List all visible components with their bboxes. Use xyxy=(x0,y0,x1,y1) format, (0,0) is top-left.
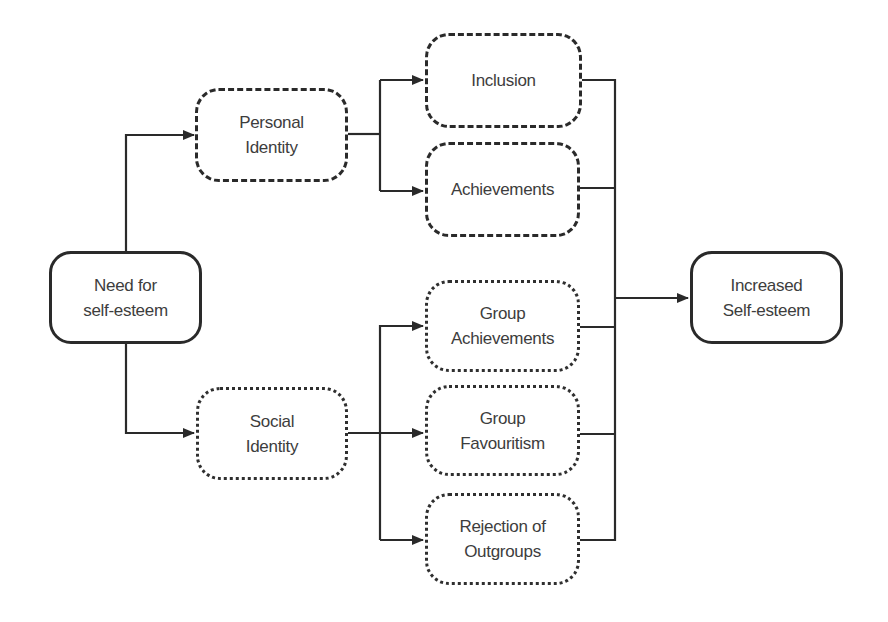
node-label: Increased Self-esteem xyxy=(723,273,810,323)
node-group-achievements: Group Achievements xyxy=(425,280,580,372)
node-need-for-self-esteem: Need for self-esteem xyxy=(49,251,202,344)
node-label: Rejection of Outgroups xyxy=(459,514,545,564)
node-label: Personal Identity xyxy=(239,110,304,160)
node-label: Achievements xyxy=(451,177,554,202)
node-label: Group Achievements xyxy=(451,301,554,351)
node-label: Social Identity xyxy=(246,409,298,459)
node-achievements: Achievements xyxy=(425,142,580,237)
node-personal-identity: Personal Identity xyxy=(195,88,348,182)
node-inclusion: Inclusion xyxy=(425,33,582,128)
node-increased-self-esteem: Increased Self-esteem xyxy=(690,251,843,344)
edge-need-social xyxy=(126,344,194,433)
node-group-favouritism: Group Favouritism xyxy=(425,385,580,476)
edge-need-personal xyxy=(126,135,194,251)
node-label: Need for self-esteem xyxy=(83,273,168,323)
node-rejection-of-outgroups: Rejection of Outgroups xyxy=(425,493,580,585)
node-label: Inclusion xyxy=(471,68,535,93)
node-label: Group Favouritism xyxy=(460,406,545,456)
node-social-identity: Social Identity xyxy=(196,387,348,480)
